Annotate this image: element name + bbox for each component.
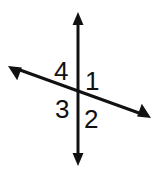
intersecting-lines-figure: [0, 0, 162, 177]
angle-label-4: 4: [54, 58, 68, 84]
angle-diagram: 1 2 3 4: [0, 0, 162, 177]
angle-label-3: 3: [55, 96, 69, 122]
angle-label-1: 1: [85, 68, 99, 94]
angle-label-2: 2: [84, 106, 98, 132]
figure-background: [0, 0, 162, 177]
